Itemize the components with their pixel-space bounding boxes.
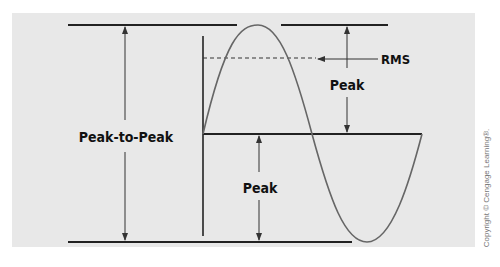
peak-to-peak-label: Peak-to-Peak [79,129,174,145]
lower-peak-label: Peak [243,180,278,196]
rms-label: RMS [381,52,410,67]
sine-wave-diagram: Peak-to-Peak Peak Peak RMS [0,0,500,267]
upper-peak-label: Peak [330,77,365,93]
copyright-notice: Copyright © Cengage Learning®. [482,129,491,248]
